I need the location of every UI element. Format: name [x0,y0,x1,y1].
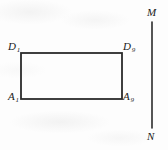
vertex-label-bottom-right: A9 [123,91,134,102]
vertex-label-bottom-left-sub: 1 [15,96,19,104]
geometry-figure: D1 D9 A1 A9 M N [0,0,168,150]
vertex-label-top-right-sub: 9 [132,46,136,54]
vertex-label-bottom-left: A1 [8,91,19,102]
vertex-label-top-left-base: D [8,40,16,52]
rectangle-shape [21,53,122,99]
vertex-label-top-right: D9 [123,41,135,52]
diagram-canvas [0,0,168,150]
vertex-label-bottom-right-base: A [123,90,130,102]
vertex-label-top-right-base: D [123,40,131,52]
vertex-label-top-left: D1 [8,41,20,52]
line-endpoint-label-n: N [147,131,154,142]
vertex-label-bottom-left-base: A [8,90,15,102]
vertex-label-top-left-sub: 1 [17,46,21,54]
vertex-label-bottom-right-sub: 9 [130,96,134,104]
line-endpoint-label-m: M [147,7,156,18]
